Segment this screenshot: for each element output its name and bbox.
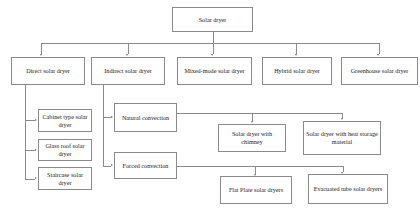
node-forced-convection[interactable]: Forced convection [114,152,177,179]
connector-drop-mixed [213,43,214,54]
arrow-down-greenhouse [377,54,379,56]
arrow-right-cabinet [35,119,37,121]
node-greenhouse-solar-dryer[interactable]: Greenhouse solar dryer [341,57,418,85]
arrow-down-indirect [126,54,128,56]
arrow-right-glassroof [35,149,37,151]
connector-drop-direct [41,43,42,54]
arrow-down-mixed [211,54,213,56]
connector-natural-bus [177,113,342,114]
node-hybrid-solar-dryer[interactable]: Hybrid solar dryer [262,57,332,85]
connector-drop-hybrid [296,43,297,54]
node-direct-solar-dryer[interactable]: Direct solar dryer [11,57,85,85]
node-evacuated-tube-solar-dryers[interactable]: Evacuated tube solar dryers [308,174,388,204]
arrow-right-natural [111,116,113,118]
connector-drop-greenhouse [379,43,380,54]
connector-direct-stem [25,85,26,179]
connector-drop-indirect [128,43,129,54]
arrow-down-hybrid [295,54,297,56]
node-glass-roof-solar-dryer[interactable]: Glass roof solar dryer [38,139,92,161]
node-staircase-solar-dryer[interactable]: Staircase solar dryer [38,167,92,190]
connector-root-stem [213,32,214,43]
connector-indirect-to-natural [103,117,111,118]
node-cabinet-type-solar-dryer[interactable]: Cabinet type solar dryer [38,109,92,132]
connector-drop-chimney [252,113,253,121]
node-solar-dryer[interactable]: Solar dryer [172,7,253,32]
node-solar-dryer-with-heat-storage-material[interactable]: Solar dryer with heat storage material [303,121,381,155]
connector-direct-to-glassroof [25,150,35,151]
connector-indirect-to-forced [103,166,111,167]
node-natural-convection[interactable]: Natural convection [114,103,177,132]
flowchart-canvas: Solar dryer Direct solar dryer Indirect … [0,0,420,214]
node-indirect-solar-dryer[interactable]: Indirect solar dryer [91,57,165,85]
node-solar-dryer-with-chimney[interactable]: Solar dryer with chimney [218,124,286,152]
connector-forced-bus [177,166,343,167]
connector-direct-to-cabinet [25,120,35,121]
node-flat-plate-solar-dryers[interactable]: Flat Plate solar dryers [220,176,292,204]
arrow-down-direct [40,54,42,56]
arrow-right-forced [111,164,113,166]
arrow-down-chimney [251,121,253,123]
connector-level2-bus [41,43,379,44]
arrow-right-staircase [35,177,37,179]
arrow-down-heatstorage [341,118,343,120]
node-mixed-mode-solar-dryer[interactable]: Mixed-mode solar dryer [177,57,252,85]
connector-direct-to-staircase [25,179,35,180]
connector-drop-flatplate [255,166,256,174]
connector-indirect-stem [103,85,104,166]
